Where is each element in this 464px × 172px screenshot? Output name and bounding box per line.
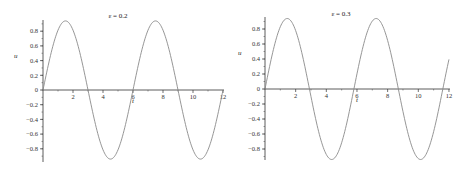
y-tick-label: −0.6 (26, 130, 39, 137)
y-tick-label: −0.2 (248, 100, 260, 107)
y-tick-label: 0 (35, 86, 38, 93)
x-tick-label: 2 (294, 92, 297, 99)
x-tick-label: 4 (101, 93, 105, 100)
y-tick-label: 0.2 (252, 70, 260, 77)
chart-canvas: −0.8−0.6−0.4−0.200.20.40.60.824681012 (0, 0, 232, 172)
y-tick-label: 0.4 (30, 57, 39, 64)
y-tick-label: −0.6 (248, 130, 261, 137)
y-tick-label: 0.8 (252, 25, 260, 32)
x-tick-label: 10 (415, 92, 422, 99)
y-tick-label: 0.4 (252, 55, 261, 62)
x-tick-label: 8 (386, 92, 389, 99)
x-tick-label: 6 (355, 92, 359, 99)
y-tick-label: −0.8 (248, 145, 260, 152)
y-tick-label: −0.8 (26, 145, 38, 152)
y-tick-label: 0.6 (30, 42, 39, 49)
plot-epsilon-0-2: ε = 0.2 u t −0.8−0.6−0.4−0.200.20.40.60.… (0, 0, 232, 172)
plot-epsilon-0-3: ε = 0.3 u t −0.8−0.6−0.4−0.200.20.40.60.… (232, 0, 464, 172)
x-tick-label: 2 (71, 93, 74, 100)
y-tick-label: 0.8 (30, 27, 38, 34)
y-tick-label: 0.2 (30, 72, 38, 79)
y-tick-label: −0.2 (26, 101, 38, 108)
chart-canvas: −0.8−0.6−0.4−0.200.20.40.60.824681012 (232, 0, 464, 172)
y-tick-label: −0.4 (26, 116, 39, 123)
x-tick-label: 12 (446, 92, 453, 99)
y-tick-label: 0 (257, 85, 260, 92)
y-tick-label: 0.6 (252, 40, 261, 47)
x-tick-label: 10 (190, 93, 197, 100)
x-tick-label: 8 (161, 93, 164, 100)
y-tick-label: −0.4 (248, 115, 261, 122)
x-tick-label: 4 (325, 92, 329, 99)
